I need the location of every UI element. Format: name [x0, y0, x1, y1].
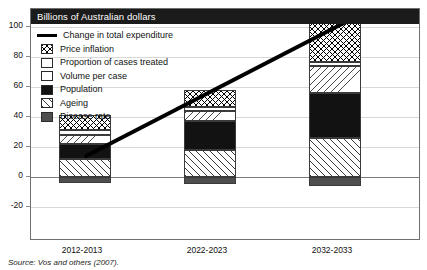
bar-2012-2013-population — [59, 144, 111, 159]
solid-black-swatch-icon — [41, 85, 53, 95]
y-tick-80: 80 — [0, 56, 30, 57]
bar-2022-2023-disease-rate — [184, 177, 236, 184]
legend-label: Price inflation — [60, 44, 114, 55]
bar-2032-2033-price-inflation — [309, 22, 361, 62]
y-tick-minus20: -20 — [0, 206, 30, 207]
y-tick-label: 80 — [14, 50, 23, 61]
legend-item-price-inflation: Price inflation — [41, 43, 231, 57]
legend-label: Volume per case — [60, 71, 127, 82]
legend-label: Disease rate — [60, 111, 111, 122]
y-axis: 100 80 60 40 20 0 -20 — [0, 0, 30, 270]
bar-2012-2013-disease-rate — [59, 177, 111, 183]
x-axis-label-2032-2033: 2032-2033 — [282, 245, 382, 255]
bar-2012-2013-volume-per-case — [59, 135, 111, 144]
plot-area: Billions of Australian dollars Change in… — [30, 8, 420, 240]
y-tick-100: 100 — [0, 26, 30, 27]
chart-legend: Change in total expenditure Price inflat… — [41, 29, 231, 124]
legend-item-volume-per-case: Volume per case — [41, 70, 231, 84]
legend-label: Population — [60, 84, 103, 95]
bar-2022-2023-ageing — [184, 150, 236, 177]
bar-2022-2023-population — [184, 121, 236, 150]
legend-label: Change in total expenditure — [63, 30, 173, 41]
legend-item-ageing: Ageing — [41, 97, 231, 111]
bar-2032-2033-ageing — [309, 138, 361, 177]
backslash-hatch-swatch-icon — [41, 71, 53, 81]
source-note: Source: Vos and others (2007). — [8, 258, 119, 267]
y-tick-label: 100 — [9, 20, 23, 31]
line-swatch-icon — [37, 34, 57, 37]
dark-gray-swatch-icon — [41, 112, 53, 122]
y-tick-label: 0 — [18, 170, 23, 181]
legend-item-proportion-of-cases-treated: Proportion of cases treated — [41, 56, 231, 70]
legend-item-disease-rate: Disease rate — [41, 110, 231, 124]
legend-label: Proportion of cases treated — [60, 57, 168, 68]
x-axis-label-2022-2023: 2022-2023 — [157, 245, 257, 255]
legend-item-change-in-total-expenditure: Change in total expenditure — [41, 29, 231, 43]
bar-2032-2033-population — [309, 93, 361, 138]
y-tick-label: 60 — [14, 80, 23, 91]
y-tick-40: 40 — [0, 116, 30, 117]
y-tick-20: 20 — [0, 146, 30, 147]
y-tick-label: 40 — [14, 110, 23, 121]
crosshatch-swatch-icon — [41, 44, 53, 54]
y-tick-60: 60 — [0, 86, 30, 87]
slash-hatch-swatch-icon — [41, 98, 53, 108]
bar-2032-2033-disease-rate — [309, 177, 361, 186]
chart-title: Billions of Australian dollars — [31, 9, 419, 24]
legend-item-population: Population — [41, 83, 231, 97]
chart-figure: 100 80 60 40 20 0 -20 — [0, 0, 427, 270]
empty-swatch-icon — [41, 58, 53, 68]
y-tick-0: 0 — [0, 176, 30, 177]
bar-2032-2033-volume-per-case — [309, 66, 361, 93]
y-tick-label: -20 — [11, 200, 23, 211]
bar-2012-2013-ageing — [59, 159, 111, 177]
x-axis-label-2012-2013: 2012-2013 — [32, 245, 132, 255]
legend-label: Ageing — [60, 98, 88, 109]
y-tick-label: 20 — [14, 140, 23, 151]
gridline-minus20 — [31, 207, 419, 208]
